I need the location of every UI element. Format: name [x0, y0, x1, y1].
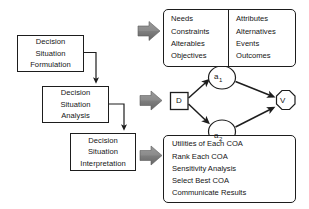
list-item: Constraints: [171, 26, 228, 38]
formulation-outputs-right-column: Attributes Alternatives Events Outcomes: [229, 10, 295, 66]
list-item: Utilities of Each COA: [172, 138, 295, 150]
stage-line-3: Analysis: [61, 110, 90, 121]
thick-arrow-formulation: [138, 22, 160, 41]
list-item: Events: [236, 38, 295, 50]
branch-d-to-a2: [189, 104, 209, 123]
stage-box-decision-situation-analysis: Decision Situation Analysis: [42, 86, 109, 123]
formulation-outputs-left-column: Needs Constraints Alterables Objectives: [164, 10, 229, 66]
list-item: Outcomes: [236, 50, 295, 62]
list-item: Select Best COA: [172, 175, 295, 187]
stage-box-decision-situation-interpretation: Decision Situation Interpretation: [70, 133, 136, 171]
stage-line-3: Formulation: [30, 59, 71, 70]
list-item: Alternatives: [236, 26, 295, 38]
branch-d-to-a1: [189, 81, 209, 99]
list-item: Attributes: [236, 13, 295, 25]
stage-line-1: Decision: [36, 36, 66, 47]
stage-line-3: Interpretation: [80, 158, 125, 169]
chance-node-a1-subscript: 1: [218, 77, 222, 83]
list-item: Communicate Results: [172, 187, 295, 199]
stage-box-decision-situation-formulation: Decision Situation Formulation: [17, 35, 84, 72]
list-item: Objectives: [171, 50, 228, 62]
connector-analysis-to-interpretation: [109, 104, 124, 128]
formulation-outputs-panel: Needs Constraints Alterables Objectives …: [163, 9, 296, 67]
list-item: Needs: [171, 13, 228, 25]
list-item: Alterables: [171, 38, 228, 50]
list-item: Rank Each COA: [172, 151, 295, 163]
stage-line-2: Situation: [60, 99, 90, 110]
decision-node-label: D: [176, 96, 182, 105]
branch-a2-to-v: [236, 108, 274, 127]
decision-tree: [171, 66, 296, 143]
thick-arrow-interpretation: [140, 146, 162, 165]
stage-line-2: Situation: [35, 48, 65, 59]
list-item: Sensitivity Analysis: [172, 163, 295, 175]
stage-line-1: Decision: [88, 135, 118, 146]
branch-a1-to-v: [236, 82, 274, 97]
stage-line-2: Situation: [88, 146, 118, 157]
diagram-canvas: Decision Situation Formulation Decision …: [0, 0, 309, 209]
value-node-label: V: [280, 96, 285, 105]
thick-arrow-analysis: [140, 91, 162, 110]
stage-line-1: Decision: [61, 87, 91, 98]
connector-formulation-to-analysis: [84, 53, 96, 81]
interpretation-outputs-panel: Utilities of Each COA Rank Each COA Sens…: [163, 135, 296, 203]
chance-node-a2-subscript: 2: [218, 136, 222, 142]
chance-node-a1-label: a1: [214, 72, 222, 83]
chance-node-a2-label: a2: [214, 131, 222, 142]
